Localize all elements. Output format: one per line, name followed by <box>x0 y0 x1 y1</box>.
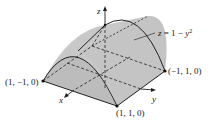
z-axis-label: z <box>96 6 101 16</box>
x-axis-arrow-icon <box>64 93 69 98</box>
surface-equation-label: z = 1 − y2 <box>157 28 192 38</box>
point-label-1-1-0: (1, 1, 0) <box>116 108 145 118</box>
z-axis-arrow-icon <box>103 6 107 11</box>
y-axis-arrow-icon <box>151 88 156 92</box>
y-axis-label: y <box>151 94 156 104</box>
point-label-neg1-1-0: (−1, 1, 0) <box>168 66 202 76</box>
parabolic-cylinder-diagram: z y x z = 1 − y2 (1, −1, 0) (1, 1, 0) (−… <box>0 0 211 128</box>
x-axis-label: x <box>58 95 63 105</box>
point-label-1-neg1-0: (1, −1, 0) <box>5 77 39 87</box>
